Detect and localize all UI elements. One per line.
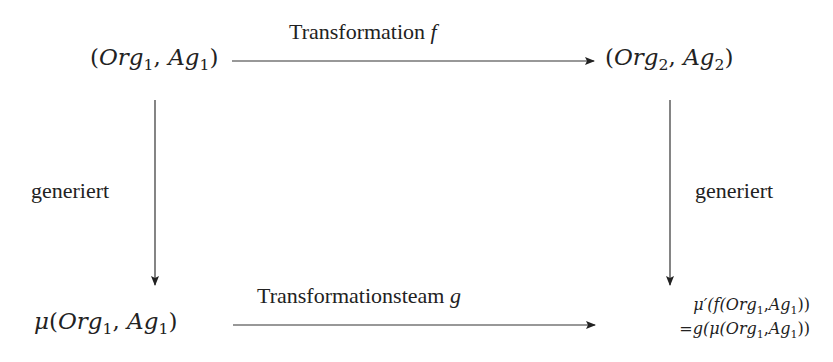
ag-subscript: 1 (158, 319, 168, 338)
org-text: Org (58, 308, 103, 334)
label-text: generiert (31, 178, 109, 203)
prefix: =g(μ( (679, 319, 726, 338)
mu-symbol: μ (34, 308, 49, 334)
edge-label-right: generiert (695, 178, 773, 204)
label-text: Transformation (289, 19, 425, 44)
function-var: g (450, 283, 461, 308)
ag-text: Ag (168, 44, 199, 70)
paren-close: ) (724, 44, 733, 70)
separator: , (669, 44, 684, 70)
node-bottom-right-line2: =g(μ(Org1,Ag1)) (648, 320, 810, 344)
ag-subscript: 1 (199, 55, 209, 74)
node-bottom-left: μ(Org1, Ag1) (34, 308, 177, 338)
org-subscript: 2 (659, 55, 669, 74)
prefix: μ′(f( (693, 295, 725, 314)
label-text: generiert (695, 178, 773, 203)
paren-close: ) (209, 44, 218, 70)
org-text: Org (99, 44, 144, 70)
edge-label-left: generiert (31, 178, 109, 204)
paren-close: ) (168, 308, 177, 334)
ag-subscript: 1 (791, 304, 798, 317)
ag-subscript: 1 (791, 328, 798, 341)
org-subscript: 1 (103, 319, 113, 338)
node-bottom-right-line1: μ′(f(Org1,Ag1)) (648, 296, 810, 320)
ag-text: Ag (769, 319, 791, 338)
node-top-right: (Org2, Ag2) (605, 44, 733, 74)
org-text: Org (614, 44, 659, 70)
edge-label-top: Transformation f (289, 19, 437, 45)
org-subscript: 1 (757, 304, 764, 317)
suffix: )) (798, 295, 810, 314)
ag-text: Ag (127, 308, 158, 334)
org-subscript: 1 (144, 55, 154, 74)
function-var: f (431, 19, 437, 44)
paren-open: ( (605, 44, 614, 70)
suffix: )) (798, 319, 810, 338)
org-text: Org (726, 319, 757, 338)
ag-subscript: 2 (714, 55, 724, 74)
paren-open: ( (49, 308, 58, 334)
separator: , (154, 44, 169, 70)
separator: , (112, 308, 127, 334)
org-text: Org (726, 295, 757, 314)
node-bottom-right: μ′(f(Org1,Ag1)) =g(μ(Org1,Ag1)) (648, 296, 810, 344)
ag-text: Ag (683, 44, 714, 70)
node-top-left: (Org1, Ag1) (90, 44, 218, 74)
paren-open: ( (90, 44, 99, 70)
edge-label-bottom: Transformationsteam g (257, 283, 461, 309)
label-text: Transformationsteam (257, 283, 444, 308)
org-subscript: 1 (757, 328, 764, 341)
ag-text: Ag (769, 295, 791, 314)
